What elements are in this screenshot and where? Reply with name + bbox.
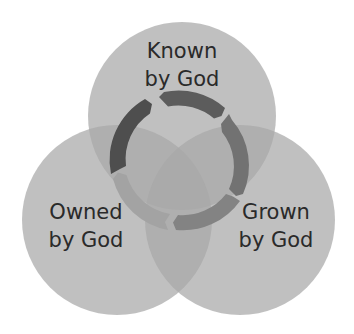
label-known-line2: by God	[132, 65, 232, 93]
label-known-by-god: Known by God	[132, 37, 232, 93]
label-known-line1: Known	[132, 37, 232, 65]
label-grown-line2: by God	[226, 226, 326, 254]
label-owned-line2: by God	[36, 226, 136, 254]
label-grown-by-god: Grown by God	[226, 198, 326, 254]
label-owned-by-god: Owned by God	[36, 198, 136, 254]
label-owned-line1: Owned	[36, 198, 136, 226]
label-grown-line1: Grown	[226, 198, 326, 226]
